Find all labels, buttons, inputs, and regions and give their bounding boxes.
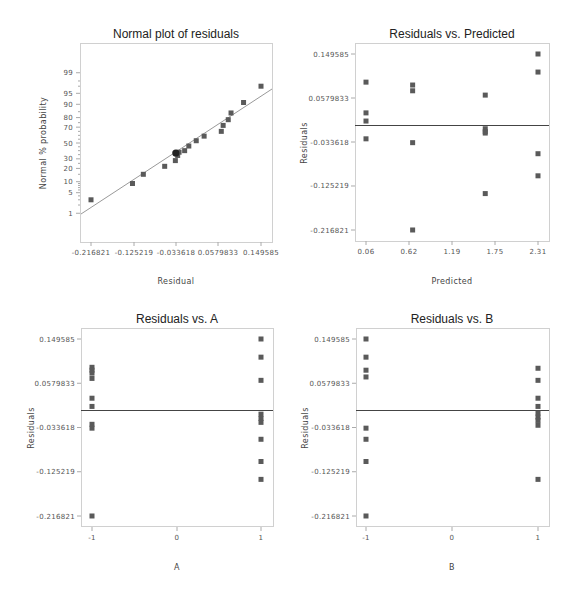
x-axis-label: Residual [158,277,195,286]
y-tick-label: -0.033618 [311,424,350,432]
data-point [536,151,541,156]
data-point [259,412,264,417]
x-axis-label: B [449,563,455,572]
data-point [259,459,264,464]
data-point [364,136,369,141]
residuals-vs-predicted-panel: Residuals vs. Predicted 0.1495850.057983… [300,27,550,286]
x-tick-label: -0.033618 [157,249,196,257]
data-point [259,336,264,341]
y-axis-label: Residuals [301,407,310,449]
data-point [90,376,95,381]
y-tick-label: -0.125219 [310,182,349,190]
data-point [536,366,541,371]
y-tick-label: 20 [63,165,73,173]
residual-diagnostics-figure: Normal plot of residuals 999590807050302… [0,0,577,592]
x-tick-label: 0.06 [358,248,375,256]
y-tick-label: -0.216821 [36,513,75,521]
data-point [173,158,178,163]
x-tick-label: 2.31 [530,248,547,256]
y-tick-label: 5 [68,189,73,197]
y-tick-label: 80 [63,114,73,122]
plot-frame [82,329,274,527]
x-axis-label: Predicted [431,277,472,286]
data-point [536,404,541,409]
data-point [536,423,541,428]
y-tick-label: 0.149585 [314,336,350,344]
data-point [536,378,541,383]
y-tick-label: 10 [63,178,73,186]
x-axis-label: A [174,563,180,572]
data-point [226,117,231,122]
data-point [90,426,95,431]
chart-title: Residuals vs. B [411,312,494,326]
data-point [259,420,264,425]
data-point [241,100,246,105]
data-point [483,191,488,196]
chart-title: Residuals vs. A [136,312,218,326]
data-point [162,164,167,169]
y-axis-label: Residuals [27,407,36,449]
x-tick-label: 0.0579833 [198,249,239,257]
y-tick-label: 0.0579833 [309,380,350,388]
x-tick-label: -1 [88,534,96,542]
data-point [259,477,264,482]
y-tick-label: 70 [63,124,73,132]
residuals-vs-b-panel: Residuals vs. B 0.1495850.0579833-0.0336… [301,312,550,572]
data-points [364,51,541,232]
data-point [364,80,369,85]
data-point [182,148,187,153]
data-point [364,374,369,379]
chart-title: Normal plot of residuals [113,27,239,41]
data-point [90,371,95,376]
y-axis-ticks: 0.1495850.0579833-0.033618-0.125219-0.21… [34,336,81,521]
data-point [410,227,415,232]
y-tick-label: 90 [63,101,73,109]
y-tick-label: 0.0579833 [308,95,349,103]
chart-title: Residuals vs. Predicted [389,27,514,41]
data-point [483,93,488,98]
data-point [364,368,369,373]
data-point [90,396,95,401]
data-point [536,173,541,178]
residuals-vs-a-panel: Residuals vs. A 0.1495850.0579833-0.0336… [27,312,274,572]
data-point [259,437,264,442]
y-tick-label: 0.149585 [39,336,75,344]
data-points [89,84,264,203]
x-axis-ticks: -101 [88,527,263,542]
data-point [229,110,234,115]
data-point [364,426,369,431]
x-tick-label: 0 [450,534,455,542]
y-tick-label: 95 [63,90,73,98]
data-point [536,418,541,423]
y-tick-label: -0.216821 [310,227,349,235]
data-point [364,336,369,341]
data-point [194,138,199,143]
y-axis-label: Residuals [300,122,309,164]
data-point [536,70,541,75]
plot-frame [81,44,273,243]
data-point [90,404,95,409]
data-point [364,437,369,442]
y-tick-label: 0.149585 [313,51,349,59]
y-tick-label: -0.216821 [311,513,350,521]
x-axis-ticks: -0.216821-0.125219-0.0336180.05798330.14… [72,242,279,257]
data-point [536,477,541,482]
data-point [410,83,415,88]
x-tick-label: 0 [175,534,180,542]
data-point [130,181,135,186]
normal-plot-panel: Normal plot of residuals 999590807050302… [39,27,279,286]
data-point [364,513,369,518]
data-point [89,197,94,202]
highlighted-point [172,149,179,156]
x-tick-label: 0.62 [401,248,418,256]
plot-frame [356,44,550,242]
x-axis-ticks: 0.060.621.191.752.31 [358,241,547,256]
data-point [221,123,226,128]
data-point [259,378,264,383]
data-point [364,110,369,115]
y-tick-label: -0.033618 [36,424,75,432]
data-point [202,134,207,139]
x-tick-label: 1.19 [444,248,461,256]
data-points [90,336,264,518]
y-tick-label: 0.0579833 [34,380,75,388]
